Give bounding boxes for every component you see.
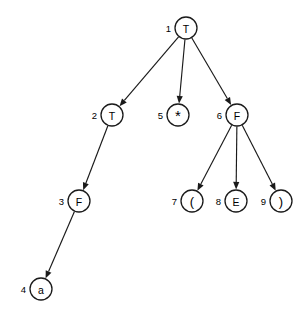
tree-node: a4 [21,278,52,300]
tree-edge [197,125,231,191]
node-symbol: T [109,110,116,122]
node-symbol: F [234,110,240,122]
node-symbol: F [76,196,82,208]
node-index-label: 7 [172,196,177,207]
tree-node: *5 [158,104,189,126]
edges-layer [46,37,276,279]
parse-tree-figure: T1T2F3a4*5F6(7E8)9 [0,0,308,310]
node-symbol: ) [279,194,283,209]
tree-node: (7 [172,190,203,212]
tree-edge [177,39,185,103]
tree-node: T1 [166,17,197,39]
edge-arrowhead [46,270,52,278]
tree-edge [83,126,108,190]
tree-edge [242,125,275,190]
tree-node: E8 [216,190,247,212]
tree-edge [233,127,239,190]
tree-node: F3 [59,190,90,212]
node-symbol: * [175,107,181,124]
node-symbol: ( [190,194,195,209]
edge-arrowhead [177,96,183,104]
nodes-layer: T1T2F3a4*5F6(7E8)9 [21,17,292,300]
node-index-label: 3 [59,196,64,207]
node-symbol: E [232,196,239,208]
tree-node: T2 [92,104,123,126]
edge-arrowhead [233,182,239,190]
tree-edge [46,212,75,279]
node-symbol: a [38,284,44,296]
tree-diagram-canvas: T1T2F3a4*5F6(7E8)9 [0,0,308,310]
edge-arrowhead [83,182,89,190]
node-index-label: 5 [158,110,163,121]
tree-edge [120,37,179,106]
edge-arrowhead [225,97,231,105]
node-index-label: 2 [92,110,97,121]
tree-edge [192,38,231,105]
node-index-label: 6 [217,110,222,121]
node-index-label: 4 [21,284,26,295]
node-symbol: T [183,23,190,35]
node-index-label: 9 [261,196,266,207]
tree-node: F6 [217,104,248,126]
node-index-label: 8 [216,196,221,207]
tree-node: )9 [261,190,292,212]
node-index-label: 1 [166,23,171,34]
